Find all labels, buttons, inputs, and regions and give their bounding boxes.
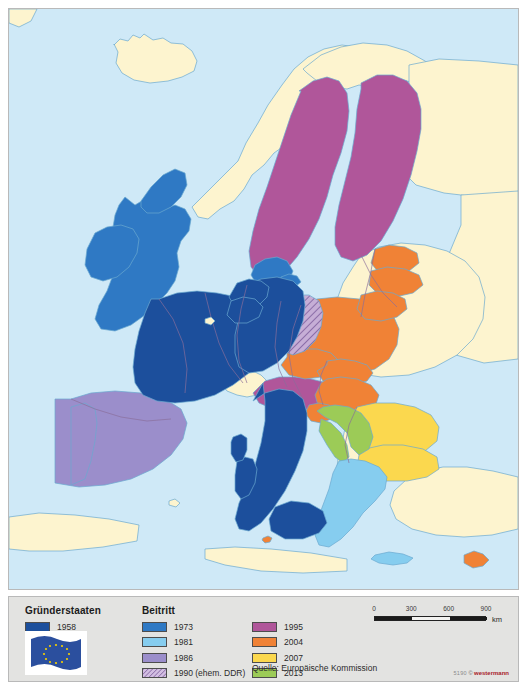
map-page: Gründerstaaten 1958 bbox=[0, 0, 525, 688]
legend-accession-title: Beitritt bbox=[142, 605, 250, 616]
legend-item-1973[interactable]: 1973 bbox=[142, 621, 250, 632]
legend-label-2004: 2004 bbox=[284, 637, 303, 647]
legend-item-1986[interactable]: 1986 bbox=[142, 652, 250, 663]
legend-item-1981[interactable]: 1981 bbox=[142, 637, 250, 648]
europe-map-svg bbox=[9, 9, 518, 589]
credit-publisher: westermann bbox=[474, 670, 509, 676]
source-note: Quelle: Europäische Kommission bbox=[252, 663, 377, 673]
legend-swatch-2007 bbox=[252, 653, 277, 663]
legend-swatch-1986 bbox=[142, 653, 167, 663]
scale-unit: km bbox=[492, 615, 502, 624]
legend-label-2007: 2007 bbox=[284, 653, 303, 663]
map-canvas[interactable] bbox=[8, 8, 519, 590]
legend-label-1958: 1958 bbox=[57, 622, 76, 632]
scale-tick-0: 0 bbox=[372, 605, 376, 612]
map-legend: Gründerstaaten 1958 bbox=[8, 596, 519, 682]
legend-item-2004[interactable]: 2004 bbox=[252, 637, 362, 648]
legend-label-1990-ddr: 1990 (ehem. DDR) bbox=[174, 668, 245, 678]
scale-tick-600: 600 bbox=[443, 605, 454, 612]
legend-founder-title: Gründerstaaten bbox=[25, 605, 133, 616]
credit-symbol: © bbox=[468, 670, 472, 676]
scale-seg-3 bbox=[450, 617, 487, 620]
scale-tick-900: 900 bbox=[481, 605, 492, 612]
scale-seg-1 bbox=[375, 617, 412, 620]
scale-bar-group: 0 300 600 900 km bbox=[374, 605, 504, 621]
legend-label-1973: 1973 bbox=[174, 622, 193, 632]
legend-label-1981: 1981 bbox=[174, 637, 193, 647]
legend-item-2007[interactable]: 2007 bbox=[252, 652, 362, 663]
eu-flag bbox=[25, 631, 87, 675]
legend-swatch-1995 bbox=[252, 622, 277, 632]
ddr-hatch-pattern bbox=[143, 669, 166, 677]
legend-item-1990-ddr[interactable]: 1990 (ehem. DDR) bbox=[142, 668, 250, 679]
publisher-credit: 5190 © westermann bbox=[453, 670, 509, 676]
legend-accession-column-right: 1995 2004 2007 2013 bbox=[252, 621, 362, 683]
legend-swatch-1973 bbox=[142, 622, 167, 632]
legend-label-1995: 1995 bbox=[284, 622, 303, 632]
scale-tick-300: 300 bbox=[406, 605, 417, 612]
scale-bar bbox=[374, 616, 486, 621]
credit-code: 5190 bbox=[453, 670, 466, 676]
scale-seg-2 bbox=[412, 617, 449, 620]
legend-swatch-1958 bbox=[25, 622, 50, 632]
legend-label-1986: 1986 bbox=[174, 653, 193, 663]
legend-swatch-2004 bbox=[252, 637, 277, 647]
scale-tick-labels: 0 300 600 900 bbox=[374, 605, 504, 615]
legend-item-1995[interactable]: 1995 bbox=[252, 621, 362, 632]
legend-accession-column-left: Beitritt 1973 1981 1986 bbox=[142, 605, 250, 683]
legend-swatch-1981 bbox=[142, 637, 167, 647]
eu-flag-svg bbox=[25, 631, 87, 675]
legend-swatch-1990-ddr bbox=[142, 668, 167, 678]
